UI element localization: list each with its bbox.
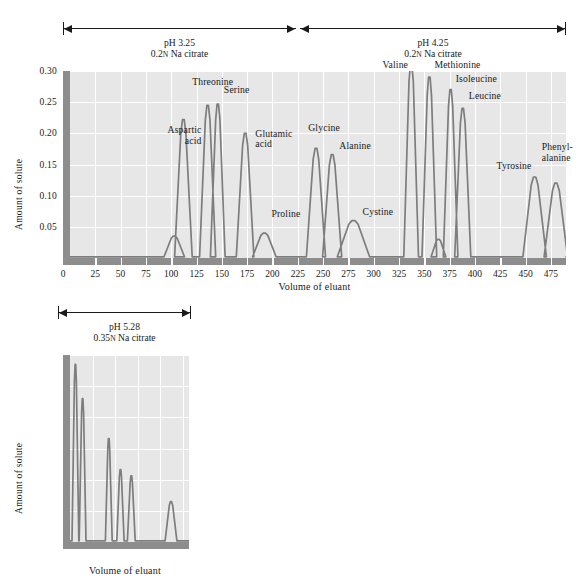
x-tick-label: 225 [284,270,312,280]
x-tick-label: 425 [486,270,514,280]
bracket-salt: Na citrate [168,48,208,59]
x-tick-mark [475,258,476,265]
y-tick-label: 0.20 [23,129,57,139]
peak-label-alanine: Alanine [339,141,419,152]
x-tick-label: 375 [436,270,464,280]
x-tick-mark [222,258,223,265]
x-tick-label: 150 [208,270,236,280]
y-axis-bar [63,71,70,265]
y-origin-label: 0 [55,270,71,280]
y-tick-label: 0.10 [23,192,57,202]
peak-label-glycine: Glycine [284,123,364,134]
x-tick-mark [551,258,552,265]
y-axis-bar [63,355,70,549]
x-tick-label: 25 [81,270,109,280]
bracket-conc: 0.2 [404,48,416,59]
x-tick-label: 250 [309,270,337,280]
x-tick-mark [247,258,248,265]
x-tick-mark [323,258,324,265]
x-tick-mark [374,258,375,265]
x-axis-title: Volume of eluant [63,281,566,292]
bracket-bar [300,28,566,29]
x-tick-mark [272,258,273,265]
bracket-arrow-start-icon [301,25,309,33]
x-tick-mark [500,258,501,265]
peak-label-leucine: Leucine [469,91,549,102]
x-tick-mark [95,258,96,265]
bracket-ph: pH 5.28 [109,321,140,332]
x-axis-bar [63,258,566,265]
x-tick-mark [450,258,451,265]
plot-area [70,355,189,542]
x-tick-label: 75 [132,270,160,280]
x-tick-mark [526,258,527,265]
bracket-label: pH 4.250.2N Na citrate [300,37,566,60]
bracket-arrow-end-icon [557,25,565,33]
peak-label-cystine: Cystine [363,207,443,218]
y-tick-label: 0.30 [23,67,57,77]
bracket-label: pH 3.250.2N Na citrate [63,37,296,60]
x-tick-label: 100 [157,270,185,280]
x-tick-label: 400 [461,270,489,280]
bracket-cap-end [190,306,191,319]
peak-label-serine: Serine [224,85,304,96]
chromatogram-trace [70,355,189,542]
x-tick-label: 50 [107,270,135,280]
bracket-arrow-end-icon [287,25,295,33]
chromatogram-chart-2: pH 5.280.35N Na citrate Amount of solute… [0,296,300,588]
bracket-conc: 0.35 [93,332,110,343]
x-tick-mark [146,258,147,265]
bracket-bar [58,312,191,313]
x-tick-label: 300 [360,270,388,280]
x-tick-label: 450 [512,270,540,280]
bracket-ph: pH 4.25 [418,37,449,48]
x-tick-label: 200 [258,270,286,280]
x-tick-mark [197,258,198,265]
x-tick-label: 175 [233,270,261,280]
bracket-cap-end [565,22,566,35]
peak-label-aspartic-acid: Aspartic acid [122,125,202,146]
x-tick-mark [171,258,172,265]
peak-label-tyrosine: Tyrosine [452,161,532,172]
x-tick-label: 350 [410,270,438,280]
bracket-arrow-start-icon [64,25,72,33]
bracket-bar [63,28,296,29]
plot-region [63,355,189,549]
y-axis-title: Amount of solute [14,443,24,514]
bracket-arrow-start-icon [59,309,67,317]
x-tick-mark [298,258,299,265]
peak-label-proline: Proline [271,209,351,220]
y-tick-label: 0.05 [23,223,57,233]
x-tick-mark [424,258,425,265]
chromatogram-chart-1: pH 3.250.2N Na citrate pH 4.250.2N Na ci… [0,0,578,290]
bracket-ph: pH 3.25 [164,37,195,48]
x-tick-label: 275 [334,270,362,280]
y-tick-label: 0.15 [23,161,57,171]
bracket-conc: 0.2 [151,48,163,59]
peak-label-isoleucine: Isoleucine [456,74,536,85]
x-axis-title: Volume of eluant [50,565,200,576]
x-tick-label: 475 [537,270,565,280]
bracket-label: pH 5.280.35N Na citrate [58,321,191,344]
bracket-salt: Na citrate [422,48,462,59]
peak-label-methionine: Methionine [434,60,514,71]
x-tick-label: 125 [183,270,211,280]
x-tick-mark [399,258,400,265]
peak-label-valine: Valine [328,60,408,71]
peak-label-phenylalanine: Phenyl- alanine [542,142,578,163]
x-axis-bar [63,542,189,549]
x-tick-mark [348,258,349,265]
bracket-salt: Na citrate [116,332,156,343]
bracket-arrow-end-icon [182,309,190,317]
x-tick-label: 325 [385,270,413,280]
y-tick-label: 0.25 [23,98,57,108]
trace-path [70,364,189,541]
x-tick-mark [121,258,122,265]
